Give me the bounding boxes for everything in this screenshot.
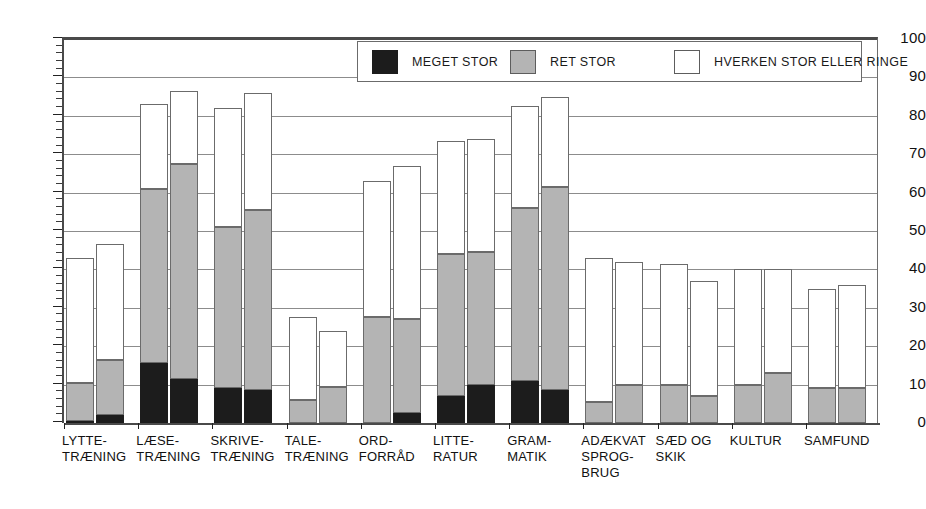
y-minor-tick xyxy=(56,390,62,391)
bar-segment-black xyxy=(140,363,168,423)
y-minor-tick xyxy=(56,321,62,322)
x-axis-baseline xyxy=(64,423,880,425)
y-minor-tick xyxy=(56,52,62,53)
y-tick-label-10: 10 xyxy=(909,374,926,391)
bar-segment-black xyxy=(541,390,569,423)
bar-a xyxy=(660,264,688,423)
y-major-tick-30 xyxy=(53,306,62,307)
bar-segment-grey xyxy=(170,164,198,379)
y-major-tick-70 xyxy=(53,152,62,153)
chart-legend: MEGET STORRET STORHVERKEN STOR ELLER RIN… xyxy=(357,41,862,82)
y-minor-tick xyxy=(56,413,62,414)
bar-b xyxy=(244,93,272,423)
bar-a xyxy=(437,141,465,423)
y-minor-tick xyxy=(56,237,62,238)
y-minor-tick xyxy=(56,406,62,407)
y-minor-tick xyxy=(56,214,62,215)
x-axis-label-10: SAMFUND xyxy=(804,433,888,449)
y-major-tick-50 xyxy=(53,229,62,230)
x-tick xyxy=(138,423,139,429)
bar-segment-grey xyxy=(437,254,465,396)
x-axis-label-4: ORD- FORRÅD xyxy=(359,433,443,465)
bar-segment-white xyxy=(289,317,317,400)
bar-segment-grey xyxy=(214,227,242,388)
y-minor-tick xyxy=(56,60,62,61)
black-swatch-icon xyxy=(372,50,398,74)
y-tick-label-100: 100 xyxy=(900,29,926,46)
gridline-100 xyxy=(64,39,877,40)
y-minor-tick xyxy=(56,175,62,176)
bar-a xyxy=(511,106,539,423)
y-minor-tick xyxy=(56,121,62,122)
y-minor-tick xyxy=(56,183,62,184)
bar-a xyxy=(363,181,391,423)
bar-b xyxy=(467,139,495,423)
y-minor-tick xyxy=(56,298,62,299)
bar-segment-grey xyxy=(764,373,792,423)
bar-a xyxy=(734,269,762,423)
bar-segment-black xyxy=(467,385,495,423)
x-axis-label-7: ADÆKVAT SPROG- BRUG xyxy=(581,433,665,481)
y-minor-tick xyxy=(56,198,62,199)
bar-a xyxy=(140,104,168,423)
y-major-tick-10 xyxy=(53,383,62,384)
x-tick xyxy=(361,423,362,429)
y-minor-tick xyxy=(56,352,62,353)
bar-segment-black xyxy=(214,388,242,423)
x-axis-label-9: KULTUR xyxy=(730,433,814,449)
x-axis-label-2: SKRIVE- TRÆNING xyxy=(210,433,294,465)
x-tick xyxy=(435,423,436,429)
bar-segment-white xyxy=(615,262,643,385)
stacked-bar-chart: MEGET STORRET STORHVERKEN STOR ELLER RIN… xyxy=(0,0,926,509)
bar-segment-white xyxy=(511,106,539,208)
bar-segment-white xyxy=(467,139,495,252)
bar-segment-grey xyxy=(96,360,124,416)
y-major-tick-80 xyxy=(53,114,62,115)
legend-item-0: MEGET STOR xyxy=(372,42,498,81)
bar-b xyxy=(319,331,347,423)
plot-inner xyxy=(64,39,877,423)
y-major-tick-40 xyxy=(53,267,62,268)
bar-segment-white xyxy=(66,258,94,383)
bar-segment-white xyxy=(541,97,569,187)
bar-segment-white xyxy=(96,244,124,359)
bar-b xyxy=(838,285,866,423)
legend-item-2: HVERKEN STOR ELLER RINGE xyxy=(674,42,908,81)
y-tick-label-20: 20 xyxy=(909,336,926,353)
y-minor-tick xyxy=(56,145,62,146)
x-axis-label-5: LITTE- RATUR xyxy=(433,433,517,465)
bar-segment-white xyxy=(838,285,866,389)
y-minor-tick xyxy=(56,313,62,314)
bar-segment-grey xyxy=(140,189,168,364)
x-axis-label-1: LÆSE- TRÆNING xyxy=(136,433,220,465)
bar-segment-grey xyxy=(511,208,539,381)
y-tick-label-70: 70 xyxy=(909,144,926,161)
bar-segment-grey xyxy=(244,210,272,390)
y-tick-label-60: 60 xyxy=(909,182,926,199)
y-tick-label-80: 80 xyxy=(909,105,926,122)
bar-a xyxy=(66,258,94,423)
y-minor-tick xyxy=(56,168,62,169)
bar-segment-grey xyxy=(541,187,569,391)
y-minor-tick xyxy=(56,360,62,361)
legend-label-1: RET STOR xyxy=(550,55,616,69)
y-tick-label-0: 0 xyxy=(917,413,926,430)
bar-segment-white xyxy=(734,269,762,384)
bar-b xyxy=(393,166,421,423)
bar-segment-black xyxy=(170,379,198,423)
y-major-tick-20 xyxy=(53,344,62,345)
y-tick-label-90: 90 xyxy=(909,67,926,84)
y-major-tick-60 xyxy=(53,191,62,192)
y-minor-tick xyxy=(56,398,62,399)
bar-segment-grey xyxy=(808,388,836,423)
bar-segment-grey xyxy=(734,385,762,423)
legend-label-0: MEGET STOR xyxy=(412,55,498,69)
y-minor-tick xyxy=(56,367,62,368)
y-minor-tick xyxy=(56,329,62,330)
bar-a xyxy=(808,289,836,423)
plot-area xyxy=(62,37,878,423)
y-tick-label-40: 40 xyxy=(909,259,926,276)
x-tick xyxy=(64,423,65,429)
y-minor-tick xyxy=(56,206,62,207)
bar-segment-grey xyxy=(660,385,688,423)
